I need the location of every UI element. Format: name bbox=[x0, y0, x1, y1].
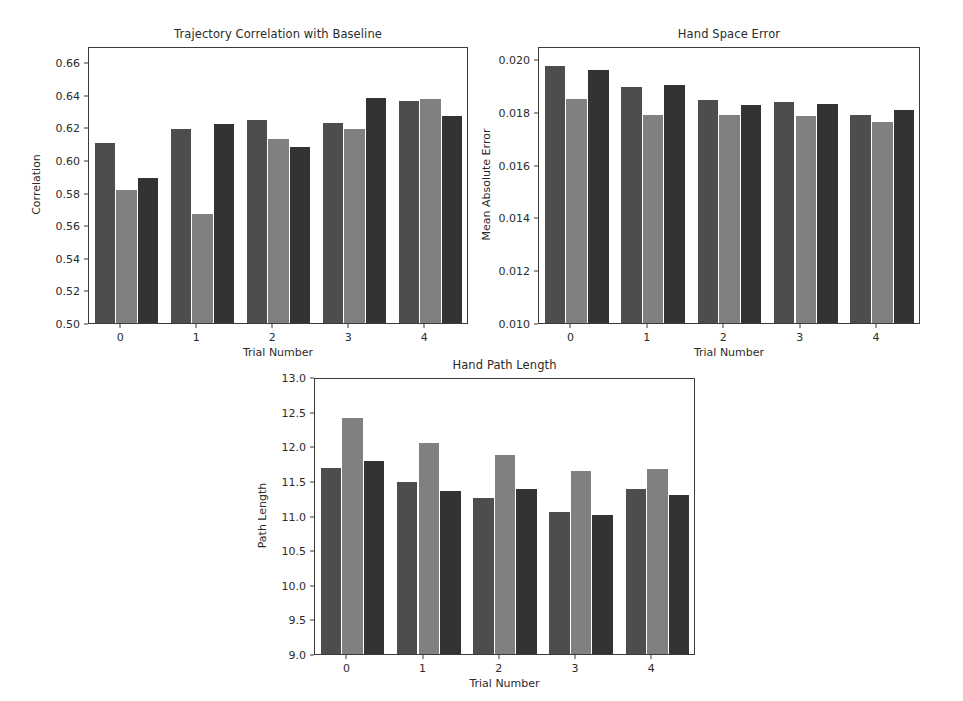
bar bbox=[516, 489, 537, 654]
y-axis-tick-mark bbox=[534, 165, 538, 166]
y-axis-tick-label: 0.62 bbox=[56, 122, 81, 135]
y-axis-tick-label: 11.0 bbox=[282, 510, 307, 523]
x-axis-tick-label: 0 bbox=[343, 662, 350, 675]
bar bbox=[344, 129, 364, 323]
x-axis-tick-mark bbox=[272, 324, 273, 328]
y-axis-tick-label: 0.020 bbox=[499, 54, 531, 67]
bar bbox=[473, 498, 494, 655]
x-axis-tick-mark bbox=[570, 324, 571, 328]
y-axis-tick-label: 13.0 bbox=[282, 372, 307, 385]
y-axis-tick-mark bbox=[84, 258, 88, 259]
x-axis-tick-label: 2 bbox=[720, 331, 727, 344]
x-axis-tick-mark bbox=[799, 324, 800, 328]
x-axis-tick-label: 0 bbox=[117, 331, 124, 344]
x-axis-tick-label: 4 bbox=[873, 331, 880, 344]
bar bbox=[138, 178, 158, 323]
y-axis-tick-mark bbox=[310, 551, 314, 552]
y-axis-tick-label: 0.66 bbox=[56, 57, 81, 70]
bar bbox=[719, 115, 740, 323]
x-axis-tick-label: 1 bbox=[643, 331, 650, 344]
y-axis-tick-mark bbox=[84, 128, 88, 129]
y-axis-tick-label: 11.5 bbox=[282, 475, 307, 488]
y-axis-tick-mark bbox=[534, 218, 538, 219]
y-axis-label: Mean Absolute Error bbox=[480, 46, 493, 323]
x-axis-tick-label: 3 bbox=[796, 331, 803, 344]
bar bbox=[268, 139, 288, 323]
x-axis-tick-mark bbox=[422, 655, 423, 659]
figure-canvas: Trajectory Correlation with Baseline0.50… bbox=[0, 0, 963, 701]
bar bbox=[894, 110, 915, 323]
x-axis-tick-mark bbox=[346, 655, 347, 659]
bar bbox=[571, 471, 592, 654]
y-axis-tick-mark bbox=[84, 291, 88, 292]
y-axis-label: Correlation bbox=[30, 46, 43, 323]
bar bbox=[774, 102, 795, 323]
bar bbox=[440, 491, 461, 654]
x-axis-tick-label: 4 bbox=[421, 331, 428, 344]
bar bbox=[592, 515, 613, 654]
bar bbox=[397, 482, 418, 654]
bar bbox=[566, 99, 587, 323]
y-axis-tick-label: 0.54 bbox=[56, 252, 81, 265]
bar bbox=[364, 461, 385, 654]
y-axis-tick-mark bbox=[84, 95, 88, 96]
y-axis-tick-label: 0.60 bbox=[56, 155, 81, 168]
y-axis-tick-mark bbox=[310, 620, 314, 621]
bar bbox=[647, 469, 668, 654]
bar bbox=[321, 468, 342, 654]
bar bbox=[214, 124, 234, 323]
x-axis-tick-label: 0 bbox=[567, 331, 574, 344]
bar bbox=[399, 101, 419, 323]
y-axis-tick-label: 0.016 bbox=[499, 159, 531, 172]
y-axis-tick-label: 0.52 bbox=[56, 285, 81, 298]
bar bbox=[247, 120, 267, 323]
bar bbox=[495, 455, 516, 654]
y-axis-tick-label: 12.0 bbox=[282, 441, 307, 454]
y-axis-tick-mark bbox=[534, 112, 538, 113]
bar bbox=[872, 122, 893, 323]
y-axis-tick-mark bbox=[310, 516, 314, 517]
x-axis-tick-mark bbox=[876, 324, 877, 328]
y-axis-tick-label: 0.50 bbox=[56, 318, 81, 331]
x-axis-tick-label: 4 bbox=[648, 662, 655, 675]
y-axis-tick-label: 10.5 bbox=[282, 545, 307, 558]
y-axis-tick-mark bbox=[534, 271, 538, 272]
bar bbox=[741, 105, 762, 323]
bar bbox=[545, 66, 566, 323]
y-axis-tick-mark bbox=[84, 161, 88, 162]
x-axis-tick-label: 2 bbox=[269, 331, 276, 344]
y-axis-tick-label: 10.0 bbox=[282, 579, 307, 592]
subplot-trajectory-correlation: Trajectory Correlation with Baseline0.50… bbox=[88, 47, 468, 324]
y-axis-label: Path Length bbox=[256, 377, 269, 654]
x-axis-tick-label: 2 bbox=[495, 662, 502, 675]
x-axis-tick-mark bbox=[120, 324, 121, 328]
bar bbox=[192, 214, 212, 323]
plot-area bbox=[88, 47, 468, 324]
y-axis-tick-mark bbox=[84, 63, 88, 64]
chart-title: Hand Path Length bbox=[314, 358, 695, 372]
x-axis-tick-mark bbox=[651, 655, 652, 659]
x-axis-tick-label: 1 bbox=[193, 331, 200, 344]
x-axis-tick-mark bbox=[574, 655, 575, 659]
y-axis-tick-mark bbox=[84, 193, 88, 194]
bar bbox=[664, 85, 685, 323]
y-axis-tick-mark bbox=[84, 226, 88, 227]
y-axis-tick-mark bbox=[310, 585, 314, 586]
x-axis-tick-mark bbox=[424, 324, 425, 328]
y-axis-tick-label: 0.56 bbox=[56, 220, 81, 233]
bar bbox=[419, 443, 440, 654]
bar bbox=[342, 418, 363, 654]
bar bbox=[817, 104, 838, 323]
x-axis-tick-mark bbox=[348, 324, 349, 328]
x-axis-tick-mark bbox=[498, 655, 499, 659]
plot-area bbox=[538, 47, 920, 324]
subplot-hand-space-error: Hand Space Error0.0100.0120.0140.0160.01… bbox=[538, 47, 920, 324]
x-axis-tick-label: 1 bbox=[419, 662, 426, 675]
subplot-hand-path-length: Hand Path Length9.09.510.010.511.011.512… bbox=[314, 378, 695, 655]
bar bbox=[290, 147, 310, 323]
bar bbox=[549, 512, 570, 654]
bar bbox=[621, 87, 642, 323]
bar bbox=[850, 115, 871, 323]
y-axis-tick-label: 0.012 bbox=[499, 265, 531, 278]
x-axis-tick-mark bbox=[723, 324, 724, 328]
